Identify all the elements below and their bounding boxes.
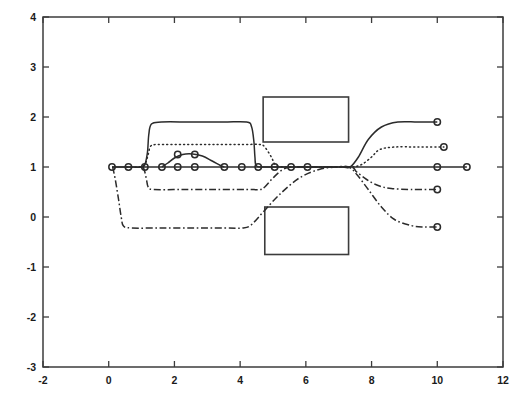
axis-frame: [43, 17, 503, 367]
axes-layer: [43, 17, 503, 367]
y-axis-tick-label: -2: [27, 311, 36, 323]
trajectories-layer: [112, 122, 467, 229]
x-axis-tick-label: 2: [172, 374, 178, 386]
y-axis-tick-label: -1: [27, 261, 36, 273]
lower-obstacle: [265, 207, 349, 255]
x-axis-tick-label: 10: [431, 374, 443, 386]
markers-layer: [109, 119, 470, 230]
upper-obstacle: [263, 97, 348, 142]
x-axis-tick-label: -2: [38, 374, 47, 386]
chart-container: -2024681012-3-2-101234: [0, 0, 527, 412]
y-axis-tick-label: -3: [27, 361, 36, 373]
tick-labels-layer: -2024681012-3-2-101234: [27, 11, 509, 386]
y-axis-tick-label: 4: [30, 11, 36, 23]
y-axis-tick-label: 1: [30, 161, 36, 173]
y-axis-tick-label: 0: [30, 211, 36, 223]
x-axis-tick-label: 4: [237, 374, 243, 386]
x-axis-tick-label: 12: [497, 374, 509, 386]
y-axis-tick-label: 2: [30, 111, 36, 123]
trajectory-plot: -2024681012-3-2-101234: [0, 0, 527, 412]
x-axis-tick-label: 0: [106, 374, 112, 386]
trajectory-agent-1-solid-upper: [112, 122, 437, 168]
y-axis-tick-label: 3: [30, 61, 36, 73]
x-axis-tick-label: 8: [369, 374, 375, 386]
x-axis-tick-label: 6: [303, 374, 309, 386]
